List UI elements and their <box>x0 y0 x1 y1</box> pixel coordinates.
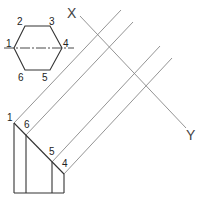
plan-vertex-4: 4 <box>63 38 69 49</box>
plan-vertex-6: 6 <box>18 72 24 83</box>
plan-vertex-3: 3 <box>49 16 55 27</box>
projection-diagram: X Y 1 2 3 4 5 6 1 6 5 4 <box>0 0 201 199</box>
plan-vertex-5: 5 <box>42 72 48 83</box>
projector-lines <box>14 10 172 174</box>
label-x: X <box>67 5 77 21</box>
reference-line-xy <box>80 16 186 128</box>
plan-vertex-1: 1 <box>6 38 12 49</box>
plan-vertex-2: 2 <box>17 16 23 27</box>
projector-line-4 <box>64 58 172 174</box>
elev-vertex-6: 6 <box>24 119 30 130</box>
elev-vertex-1: 1 <box>7 112 13 123</box>
elevation-view: 1 6 5 4 <box>7 112 68 193</box>
elev-vertex-4: 4 <box>62 158 68 169</box>
projector-line-1 <box>14 10 121 123</box>
plan-view-hexagon: 1 2 3 4 5 6 <box>4 16 74 83</box>
label-y: Y <box>186 127 196 143</box>
projector-line-5 <box>52 46 160 162</box>
elev-vertex-5: 5 <box>49 146 55 157</box>
